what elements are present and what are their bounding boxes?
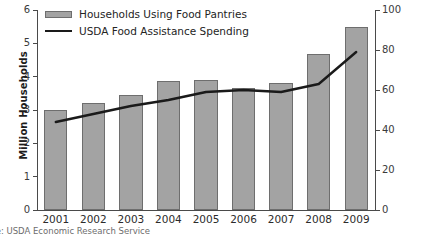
y-axis-left-tick — [33, 210, 37, 211]
y-axis-left-tick-label: 0 — [8, 205, 30, 215]
y-axis-right-tick-label: 20 — [382, 165, 406, 175]
x-axis-tick-label-2007: 2007 — [262, 214, 300, 225]
y-axis-right-tick-label: 60 — [382, 85, 406, 95]
x-axis-line — [37, 210, 376, 211]
x-axis-tick-label-2009: 2009 — [337, 214, 375, 225]
y-axis-right-tick-label: 40 — [382, 125, 406, 135]
y-axis-left-tick — [33, 76, 37, 77]
bar-2001 — [44, 110, 67, 210]
bar-2007 — [269, 83, 292, 210]
x-axis-tick-label-2002: 2002 — [75, 214, 113, 225]
y-axis-left-tick — [33, 143, 37, 144]
legend-item-spending: USDA Food Assistance Spending — [45, 24, 249, 38]
y-axis-right-tick — [376, 10, 380, 11]
bar-2003 — [119, 95, 142, 210]
bar-2008 — [307, 54, 330, 210]
line-swatch-icon — [45, 30, 72, 32]
x-axis-tick-label-2004: 2004 — [150, 214, 188, 225]
bar-2009 — [345, 27, 368, 210]
legend-label-households: Households Using Food Pantries — [79, 9, 247, 20]
y-axis-left-tick — [33, 10, 37, 11]
x-axis-tick-label-2003: 2003 — [112, 214, 150, 225]
legend-item-households: Households Using Food Pantries — [45, 7, 249, 21]
bar-swatch-icon — [45, 11, 72, 18]
y-axis-left-line — [37, 10, 38, 211]
y-axis-right-tick-label: 0 — [382, 205, 406, 215]
x-axis-tick-label-2001: 2001 — [37, 214, 75, 225]
chart-legend: Households Using Food Pantries USDA Food… — [45, 7, 249, 41]
y-axis-right-tick — [376, 170, 380, 171]
y-axis-right-tick — [376, 210, 380, 211]
chart-figure: 0123456 020406080100 Million Households … — [0, 0, 421, 236]
x-axis-tick-label-2006: 2006 — [225, 214, 263, 225]
y-axis-right-tick — [376, 130, 380, 131]
bar-2006 — [232, 88, 255, 210]
bar-2004 — [157, 81, 180, 210]
y-axis-right-tick — [376, 50, 380, 51]
bar-2002 — [82, 103, 105, 210]
x-axis-tick-label-2005: 2005 — [187, 214, 225, 225]
bar-2005 — [194, 80, 217, 210]
y-axis-left-tick — [33, 176, 37, 177]
y-axis-left-tick — [33, 110, 37, 111]
y-axis-right-line — [375, 10, 376, 211]
y-axis-right-tick-label: 80 — [382, 45, 406, 55]
y-axis-left-tick-label: 6 — [8, 5, 30, 15]
y-axis-right-tick-label: 100 — [382, 5, 406, 15]
y-axis-right-tick — [376, 90, 380, 91]
y-axis-left-title: Million Households — [18, 31, 29, 181]
y-axis-left-tick — [33, 43, 37, 44]
x-axis-tick-label-2008: 2008 — [300, 214, 338, 225]
source-note: ce: USDA Economic Research Service — [0, 227, 150, 236]
legend-label-spending: USDA Food Assistance Spending — [79, 26, 249, 37]
